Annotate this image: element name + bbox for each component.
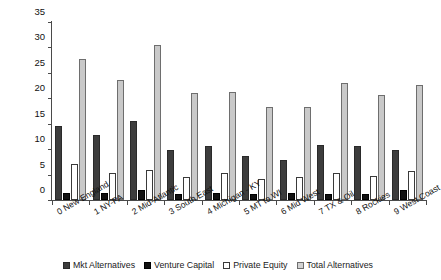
bar [416, 85, 423, 200]
legend-item[interactable]: Private Equity [223, 260, 287, 270]
y-axis-tick-label: 10 [34, 133, 52, 144]
bar-group [239, 22, 276, 200]
legend-swatch-icon [144, 262, 151, 269]
x-axis-tick-mark [351, 200, 352, 205]
legend-swatch-icon [297, 262, 304, 269]
bar-group [52, 22, 89, 200]
bar-group [202, 22, 239, 200]
bar [55, 126, 62, 200]
bar [130, 121, 137, 200]
bar [229, 92, 236, 200]
bar [354, 146, 361, 200]
bar-group [276, 22, 313, 200]
bar [266, 107, 273, 200]
x-axis-tick-mark [426, 200, 427, 205]
chart-legend: Mkt AlternativesVenture CapitalPrivate E… [0, 260, 436, 270]
x-axis-tick-mark [164, 200, 165, 205]
bar-group [89, 22, 126, 200]
bar [378, 95, 385, 200]
bar [392, 150, 399, 200]
y-axis-tick-label: 5 [40, 158, 52, 169]
bar [400, 190, 407, 200]
plot-area: 05101520253035 [52, 22, 426, 200]
bar-group [351, 22, 388, 200]
bar-group [389, 22, 426, 200]
legend-label: Mkt Alternatives [73, 260, 135, 270]
bar [79, 59, 86, 200]
y-axis-tick-label: 35 [34, 6, 52, 17]
y-axis-tick-label: 15 [34, 107, 52, 118]
legend-label: Venture Capital [154, 260, 214, 270]
bar-group [127, 22, 164, 200]
legend-item[interactable]: Venture Capital [144, 260, 214, 270]
x-axis-tick-mark [202, 200, 203, 205]
x-axis-tick-mark [52, 200, 53, 205]
y-axis-tick-label: 25 [34, 56, 52, 67]
bar-group [314, 22, 351, 200]
bar [304, 107, 311, 200]
y-axis-tick-label: 20 [34, 82, 52, 93]
bar [117, 80, 124, 200]
x-axis-tick-mark [314, 200, 315, 205]
bar [154, 45, 161, 200]
x-axis-tick-mark [89, 200, 90, 205]
legend-label: Total Alternatives [307, 260, 374, 270]
bar [341, 83, 348, 200]
x-axis-tick-mark [389, 200, 390, 205]
bar [191, 93, 198, 200]
x-axis-tick-mark [239, 200, 240, 205]
legend-swatch-icon [63, 262, 70, 269]
legend-item[interactable]: Mkt Alternatives [63, 260, 135, 270]
bar-group [164, 22, 201, 200]
legend-label: Private Equity [233, 260, 287, 270]
x-axis-tick-mark [276, 200, 277, 205]
y-axis-tick-label: 30 [34, 31, 52, 42]
y-axis-tick-label: 0 [40, 184, 52, 195]
x-axis-tick-mark [127, 200, 128, 205]
legend-swatch-icon [223, 262, 230, 269]
legend-item[interactable]: Total Alternatives [297, 260, 374, 270]
